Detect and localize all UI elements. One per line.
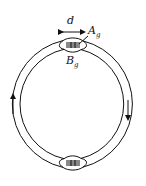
gap-width-label: d — [67, 14, 74, 27]
toroid-diagram — [0, 0, 146, 186]
gap-area-label: Ag — [88, 24, 100, 39]
top-gap-fringing — [59, 36, 88, 52]
gap-field-label: Bg — [66, 54, 79, 69]
